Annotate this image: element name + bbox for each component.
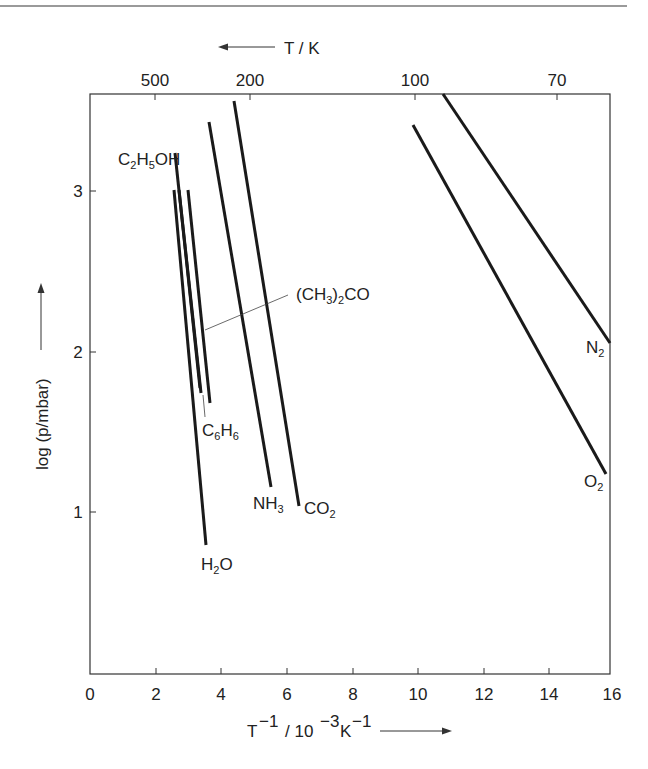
- svg-text:3: 3: [73, 182, 82, 201]
- line-co2: [234, 101, 299, 506]
- vapor-pressure-chart: 500 200 100 70 T / K 0 2 4 6 8 10 12 14 …: [0, 0, 648, 769]
- svg-text:T / K: T / K: [284, 39, 320, 58]
- label-c2h5oh: C2H5OH: [118, 150, 180, 171]
- top-axis-ticks: [155, 94, 557, 100]
- svg-text:/ 10: / 10: [285, 722, 313, 741]
- svg-text:K: K: [340, 722, 352, 741]
- svg-text:12: 12: [475, 685, 494, 704]
- svg-text:10: 10: [409, 685, 428, 704]
- svg-text:8: 8: [348, 685, 357, 704]
- bottom-axis-title: T −1 / 10 −3 K −1: [247, 712, 452, 741]
- left-arrow-icon: [218, 44, 228, 51]
- label-ch32co: (CH3)2CO: [296, 285, 370, 306]
- svg-text:2: 2: [151, 685, 160, 704]
- svg-text:0: 0: [85, 685, 94, 704]
- svg-text:14: 14: [540, 685, 559, 704]
- left-axis-title: log (p/mbar): [33, 283, 52, 470]
- svg-text:500: 500: [141, 71, 169, 90]
- svg-text:1: 1: [73, 503, 82, 522]
- label-o2: O2: [584, 472, 603, 493]
- svg-text:−3: −3: [320, 712, 339, 731]
- plot-frame: [90, 94, 610, 674]
- label-co2: CO2: [304, 499, 336, 520]
- label-c6h6: C6H6: [202, 421, 239, 442]
- svg-text:−1: −1: [352, 712, 371, 731]
- svg-text:log (p/mbar): log (p/mbar): [33, 378, 52, 470]
- svg-text:2: 2: [73, 343, 82, 362]
- left-axis-ticks: [90, 191, 96, 512]
- svg-text:70: 70: [548, 71, 567, 90]
- svg-text:200: 200: [236, 71, 264, 90]
- bottom-axis-tick-labels: 0 2 4 6 8 10 12 14 16: [85, 685, 621, 704]
- bottom-axis-ticks: [156, 668, 549, 674]
- label-nh3: NH3: [253, 494, 284, 515]
- series-lines: [174, 94, 610, 545]
- up-arrow-icon: [38, 283, 45, 293]
- svg-text:T: T: [247, 722, 257, 741]
- svg-text:−1: −1: [259, 712, 278, 731]
- line-h2o: [174, 190, 206, 545]
- svg-text:16: 16: [603, 685, 622, 704]
- top-axis-tick-labels: 500 200 100 70: [141, 71, 567, 90]
- svg-text:100: 100: [401, 71, 429, 90]
- line-o2: [413, 125, 606, 474]
- top-axis-title: T / K: [218, 39, 320, 58]
- svg-text:6: 6: [282, 685, 291, 704]
- left-axis-tick-labels: 1 2 3: [73, 182, 82, 522]
- line-n2: [443, 94, 610, 343]
- svg-text:4: 4: [216, 685, 225, 704]
- label-h2o: H2O: [201, 555, 233, 576]
- right-arrow-icon: [442, 728, 452, 735]
- label-n2: N2: [586, 338, 604, 359]
